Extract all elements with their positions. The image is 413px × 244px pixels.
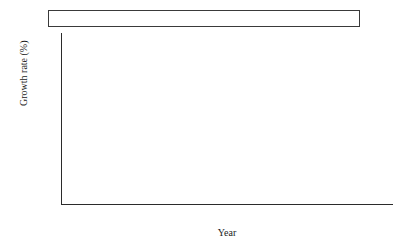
plot-area: Year: [62, 34, 392, 204]
y-axis-title: Growth rate (%): [18, 40, 29, 106]
x-axis-spine: [61, 204, 393, 205]
bar-chart-figure: Growth rate (%) Year: [0, 0, 413, 244]
chart-legend: [48, 10, 360, 27]
x-axis-title: Year: [62, 227, 392, 238]
